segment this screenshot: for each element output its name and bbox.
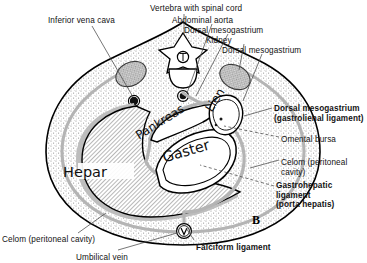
- callout-line: (porta hepatis): [276, 200, 334, 210]
- callout-line: Gastrohepatic: [276, 181, 334, 191]
- callout-inferior-vena-cava: Inferior vena cava: [48, 16, 115, 26]
- callout-line: cavity): [281, 168, 347, 178]
- callout-line: Omental bursa: [281, 135, 336, 145]
- callout-line: Celom (peritoneal: [281, 158, 347, 168]
- callout-dorsal-mesogastrium-1: Dorsal mesogastrium: [184, 26, 263, 36]
- callout-omental-bursa: Omental bursa: [281, 135, 336, 145]
- callout-celom-right: Celom (peritonealcavity): [281, 158, 347, 177]
- umbilical-vein: [177, 224, 192, 239]
- callout-line: Dorsal mesogastrium: [274, 104, 364, 114]
- callout-falciform-ligament: Falciform ligament: [196, 243, 271, 253]
- callout-gastrohepatic-ligament: Gastrohepaticligament(porta hepatis): [276, 181, 334, 210]
- callout-kidney: Kidney: [206, 36, 232, 46]
- organ-label-hepar: Hepar: [63, 164, 107, 180]
- callout-umbilical-vein: Umbilical vein: [76, 253, 128, 263]
- callout-abdominal-aorta: Abdominal aorta: [172, 16, 233, 26]
- callout-line: ligament: [276, 191, 334, 201]
- callout-vertebra: Vertebra with spinal cord: [150, 4, 242, 14]
- callout-line: (gastrolienal ligament): [274, 114, 364, 124]
- callout-dorsal-mesogastrium-2: Dorsal mesogastrium: [222, 46, 301, 56]
- callout-dorsal-mesogastrium-gastrolienal: Dorsal mesogastrium(gastrolienal ligamen…: [274, 104, 364, 123]
- panel-label: B: [252, 213, 260, 228]
- anatomical-cross-section-figure: [0, 0, 367, 263]
- callout-celom-bottom: Celom (peritoneal cavity): [2, 235, 95, 245]
